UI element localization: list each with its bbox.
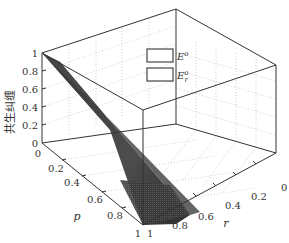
surface-plot: 0 0.2 0.4 0.6 0.8 1 0 0.2 0.4 0.6 0.8 1 … [0,0,289,243]
svg-text:0.8: 0.8 [172,220,188,231]
legend-swatch-e-o [147,49,173,62]
legend-label-e-o: Eo [176,50,189,62]
legend: Eo Eor [147,49,189,84]
legend-swatch-e-r-o [147,68,173,81]
svg-text:0.6: 0.6 [87,194,103,205]
svg-text:0.8: 0.8 [22,66,38,77]
svg-text:0: 0 [281,182,287,193]
legend-label-e-r-o: Eor [176,69,189,84]
p-axis-label: p [73,210,80,223]
z-axis-label: 共生纠缠 [3,90,17,134]
svg-text:1: 1 [147,228,153,239]
svg-text:0.8: 0.8 [107,210,123,221]
svg-text:0.4: 0.4 [225,200,241,211]
svg-text:0: 0 [35,148,41,159]
svg-text:1: 1 [135,228,141,239]
svg-text:0.6: 0.6 [198,211,214,222]
svg-text:0.2: 0.2 [48,163,64,174]
svg-text:1: 1 [32,48,38,59]
r-axis-label: r [223,217,229,230]
svg-text:0.6: 0.6 [22,84,38,95]
svg-text:0.2: 0.2 [22,120,38,131]
svg-text:0.2: 0.2 [251,191,267,202]
svg-text:0.4: 0.4 [64,177,80,188]
svg-text:0.4: 0.4 [22,102,38,113]
z-tick-labels: 0 0.2 0.4 0.6 0.8 1 [22,48,38,149]
